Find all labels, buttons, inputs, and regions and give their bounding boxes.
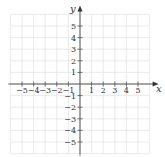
y-tick-label: 3	[71, 45, 76, 54]
x-tick-label: 2	[101, 86, 106, 95]
x-tick-label: 1	[89, 86, 94, 95]
y-tick-label: −1	[64, 92, 76, 101]
y-tick-label: 1	[71, 68, 76, 77]
y-tick-label: −5	[64, 138, 76, 147]
x-tick-label: 3	[112, 86, 117, 95]
x-tick-label: −4	[28, 86, 40, 95]
x-tick-label: −2	[51, 86, 63, 95]
y-tick-label: 5	[71, 22, 76, 31]
y-tick-label: 4	[71, 34, 76, 43]
y-tick-label: −3	[64, 115, 76, 124]
y-axis-label: y	[69, 3, 76, 14]
y-tick-label: 2	[71, 57, 76, 66]
y-tick-label: −4	[64, 126, 76, 135]
axes	[8, 5, 158, 155]
x-tick-label: 5	[135, 86, 140, 95]
x-tick-label: 4	[124, 86, 129, 95]
y-tick-label: −2	[64, 103, 76, 112]
x-tick-label: −3	[39, 86, 51, 95]
y-axis-arrow-icon	[78, 5, 83, 11]
coordinate-plane: −5−4−3−2−11234554321−1−2−3−4−5 y x	[0, 0, 165, 157]
x-axis-label: x	[156, 83, 162, 94]
x-tick-label: −5	[16, 86, 28, 95]
